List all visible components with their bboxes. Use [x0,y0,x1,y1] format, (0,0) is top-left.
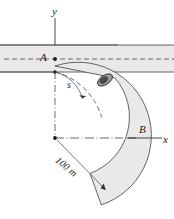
point-a-label: A [40,52,47,63]
arc-length-label: s [67,80,71,90]
road-diagram-svg [0,0,174,219]
y-axis-label: y [52,6,57,17]
origin-marker [53,136,57,140]
x-axis-label: x [163,134,168,145]
point-b-label: B [139,124,146,135]
point-a-marker [53,57,57,61]
figure-container: y x A B s 100 m [0,0,174,219]
curve-centerline-dashed [55,72,102,117]
arc-length-arrowhead [79,95,86,98]
